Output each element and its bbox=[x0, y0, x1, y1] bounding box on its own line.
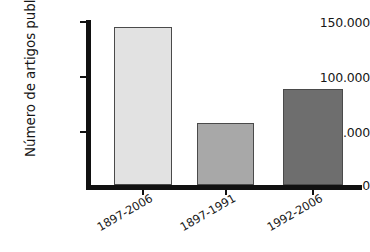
bar-1992-2006 bbox=[283, 89, 343, 185]
x-axis-label-1897-2006: 1897-2006 bbox=[95, 191, 156, 234]
bar-1897-1991 bbox=[197, 123, 254, 185]
y-axis-tick-label-150000: 150.000 bbox=[308, 15, 370, 30]
x-axis-label-1897-1991: 1897-1991 bbox=[178, 191, 239, 234]
y-axis-line bbox=[86, 20, 91, 188]
x-axis-label-1992-2006: 1992-2006 bbox=[265, 191, 326, 234]
plot-area: 150.000 100.000 50.000 0 1897-2006 1897-… bbox=[0, 0, 370, 252]
y-axis-tick-label-100000: 100.000 bbox=[308, 70, 370, 85]
bar-1897-2006 bbox=[114, 27, 172, 185]
bar-chart-figure: Número de artigos publicados 150.000 100… bbox=[0, 0, 370, 252]
x-axis-line bbox=[86, 185, 362, 190]
